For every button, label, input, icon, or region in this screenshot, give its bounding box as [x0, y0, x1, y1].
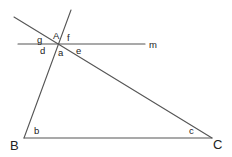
angle-label-c: c [189, 125, 194, 136]
vertex-label-a: A [53, 30, 60, 41]
angle-label-e: e [76, 45, 81, 56]
line-label-m: m [149, 39, 157, 50]
geometry-diagram: A B C m g f d a e b c [0, 0, 232, 157]
line-ac [14, 17, 212, 138]
angle-label-f: f [67, 32, 70, 43]
vertex-label-b: B [10, 138, 19, 153]
angle-label-a: a [58, 47, 64, 58]
angle-label-g: g [37, 34, 42, 45]
line-ab [24, 10, 71, 138]
vertex-label-c: C [213, 137, 222, 152]
angle-label-b: b [34, 125, 39, 136]
angle-label-d: d [40, 45, 45, 56]
